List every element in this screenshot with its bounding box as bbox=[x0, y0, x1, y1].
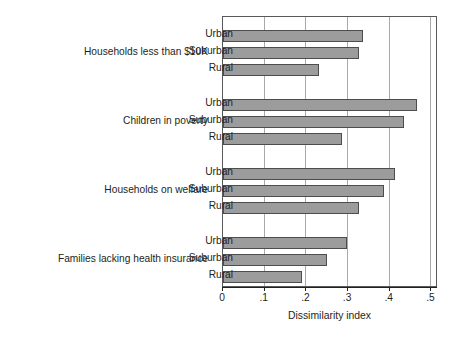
bar bbox=[223, 30, 363, 42]
x-tick-.4 bbox=[389, 287, 390, 291]
row-label-rural: Rural bbox=[168, 62, 238, 74]
bar bbox=[223, 254, 327, 266]
x-tick-0 bbox=[222, 287, 223, 291]
bar bbox=[223, 116, 404, 128]
row-label-urban: Urban bbox=[168, 28, 238, 40]
bar bbox=[223, 133, 342, 145]
bar bbox=[223, 99, 417, 111]
gridline-.5 bbox=[430, 17, 431, 286]
row-label-urban: Urban bbox=[168, 97, 238, 109]
x-tick-label-0: 0 bbox=[210, 292, 234, 304]
x-tick-.1 bbox=[264, 287, 265, 291]
x-axis bbox=[222, 287, 437, 288]
bar bbox=[223, 185, 384, 197]
x-tick-.5 bbox=[430, 287, 431, 291]
category-label: Families lacking health insurance bbox=[58, 253, 208, 265]
bar bbox=[223, 237, 347, 249]
x-axis-title: Dissimilarity index bbox=[222, 309, 437, 322]
plot-area bbox=[222, 16, 437, 287]
x-tick-label-.3: .3 bbox=[335, 292, 359, 304]
dissimilarity-index-bar-chart: Dissimilarity index 0.1.2.3.4.5UrbanSubu… bbox=[0, 0, 460, 339]
category-label: Children in poverty bbox=[123, 115, 208, 127]
bar bbox=[223, 202, 359, 214]
x-tick-.3 bbox=[347, 287, 348, 291]
row-label-rural: Rural bbox=[168, 269, 238, 281]
category-label: Households less than $10K bbox=[84, 46, 208, 58]
bar bbox=[223, 168, 395, 180]
row-label-rural: Rural bbox=[168, 131, 238, 143]
row-label-rural: Rural bbox=[168, 200, 238, 212]
row-label-urban: Urban bbox=[168, 166, 238, 178]
x-tick-label-.1: .1 bbox=[252, 292, 276, 304]
x-tick-.2 bbox=[305, 287, 306, 291]
row-label-urban: Urban bbox=[168, 235, 238, 247]
gridline-.4 bbox=[389, 17, 390, 286]
bar bbox=[223, 47, 359, 59]
x-tick-label-.4: .4 bbox=[377, 292, 401, 304]
category-label: Households on welfare bbox=[104, 184, 208, 196]
x-tick-label-.2: .2 bbox=[293, 292, 317, 304]
x-tick-label-.5: .5 bbox=[418, 292, 442, 304]
